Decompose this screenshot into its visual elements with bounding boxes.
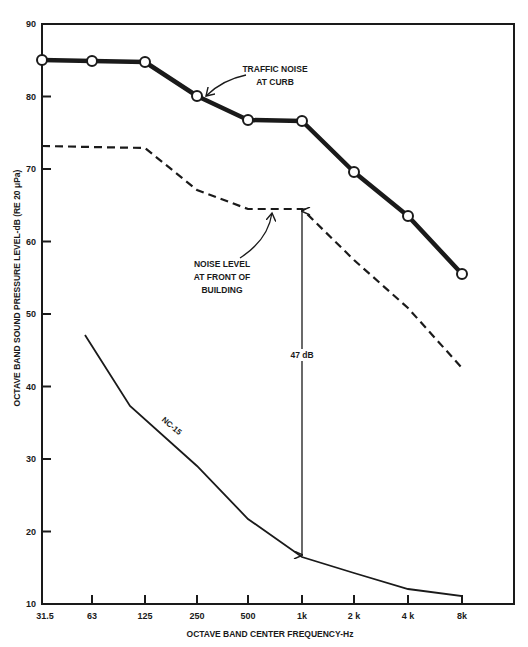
y-tick-20: 20 — [26, 527, 36, 537]
x-tick-250: 250 — [189, 611, 204, 621]
annotation-building-line1: NOISE LEVEL — [194, 259, 250, 269]
annotation-building-line2: AT FRONT OF — [194, 272, 251, 282]
y-ticks — [42, 97, 51, 532]
y-tick-40: 40 — [26, 382, 36, 392]
series-traffic-noise — [42, 60, 462, 274]
x-tick-31-5: 31.5 — [36, 611, 54, 621]
x-tick-8k: 8k — [457, 611, 468, 621]
difference-label: 47 dB — [290, 350, 313, 360]
x-tick-1k: 1k — [297, 611, 308, 621]
y-tick-80: 80 — [26, 92, 36, 102]
annotation-traffic-line1: TRAFFIC NOISE — [242, 64, 307, 74]
plot-frame — [42, 24, 514, 604]
y-tick-30: 30 — [26, 454, 36, 464]
x-tick-2k: 2 k — [348, 611, 362, 621]
x-tick-500: 500 — [240, 611, 255, 621]
y-tick-90: 90 — [26, 19, 36, 29]
traffic-markers — [37, 55, 467, 279]
x-tick-63: 63 — [87, 611, 97, 621]
annotation-traffic-arrow — [206, 75, 246, 96]
annotation-building-arrow — [240, 213, 272, 258]
annotation-traffic-line2: AT CURB — [256, 77, 294, 87]
y-axis-title: OCTAVE BAND SOUND PRESSURE LEVEL-dB (RE … — [12, 169, 22, 406]
chart: 10 20 30 40 50 60 70 80 90 31.5 63 125 2… — [0, 0, 528, 647]
annotation-nc15: NC-15 — [160, 415, 184, 437]
y-tick-60: 60 — [26, 237, 36, 247]
x-axis-title: OCTAVE BAND CENTER FREQUENCY-Hz — [187, 629, 354, 639]
y-tick-70: 70 — [26, 164, 36, 174]
x-tick-labels: 31.5 63 125 250 500 1k 2 k 4 k 8k — [36, 611, 468, 621]
annotation-building-line3: BUILDING — [201, 285, 242, 295]
y-tick-50: 50 — [26, 309, 36, 319]
series-building-noise — [42, 146, 462, 368]
series-nc15 — [85, 335, 462, 604]
y-tick-10: 10 — [26, 599, 36, 609]
x-ticks — [92, 595, 462, 604]
x-tick-4k: 4 k — [402, 611, 416, 621]
y-tick-labels: 10 20 30 40 50 60 70 80 90 — [26, 19, 36, 609]
x-tick-125: 125 — [137, 611, 152, 621]
